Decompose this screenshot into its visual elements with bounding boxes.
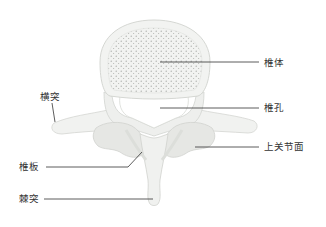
label-vertebral-foramen: 椎孔	[264, 102, 284, 113]
vertebra-diagram: 椎体 椎孔 横突 上关节面 椎板 棘突	[0, 0, 326, 227]
leader-transverse-process	[52, 103, 55, 122]
label-lamina: 椎板	[19, 161, 39, 172]
label-vertebral-body: 椎体	[264, 57, 284, 68]
label-superior-articular-surface: 上关节面	[264, 141, 304, 152]
vertebra-illustration	[0, 0, 326, 227]
vertebral-body-shape	[100, 20, 210, 99]
label-transverse-process: 横突	[40, 91, 60, 102]
label-spinous-process: 棘突	[19, 193, 39, 204]
